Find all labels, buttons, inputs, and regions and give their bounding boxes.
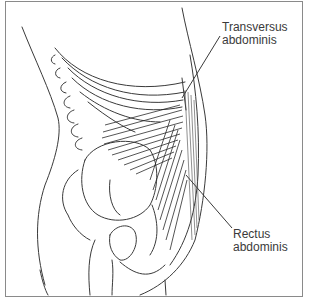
vertebra (75, 138, 82, 150)
femur-shaft (89, 240, 95, 295)
vertebra (61, 82, 66, 93)
rib (62, 58, 185, 95)
pelvis-lower (150, 205, 157, 255)
vertebra (51, 55, 55, 64)
femur-shaft (112, 260, 113, 295)
leader-line-rectus (186, 175, 232, 228)
oblique-muscle-hatching (102, 105, 187, 250)
label-line: abdominis (222, 34, 288, 47)
rib (80, 92, 160, 122)
thigh-line (165, 280, 166, 295)
rib (72, 78, 182, 110)
label-transversus-abdominis: Transversus abdominis (222, 21, 288, 47)
front-body-outline (140, 8, 207, 295)
leader-line-transversus (182, 36, 220, 98)
vertebra (67, 110, 74, 123)
vertebra (64, 96, 70, 108)
back-outline (22, 27, 59, 285)
vertebra (56, 68, 61, 78)
femur-head (109, 226, 136, 260)
pelvis-inner (109, 180, 120, 215)
hip-curve (120, 262, 165, 274)
label-line: abdominis (233, 241, 288, 254)
vertebra (71, 124, 78, 137)
pelvis-outline (63, 170, 90, 240)
label-rectus-abdominis: Rectus abdominis (233, 228, 288, 254)
